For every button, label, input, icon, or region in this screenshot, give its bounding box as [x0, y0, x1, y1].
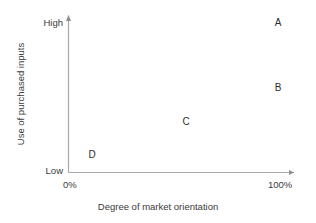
x-tick-label-zero: 0%: [63, 180, 77, 190]
y-axis-title: Use of purchased inputs: [16, 4, 29, 184]
y-tick-label-low: Low: [46, 166, 63, 176]
data-point-a: A: [275, 18, 282, 28]
y-tick-label-high: High: [43, 18, 63, 28]
data-point-c: C: [182, 117, 189, 127]
x-tick-label-hundred: 100%: [268, 180, 292, 190]
data-point-b: B: [275, 83, 282, 93]
x-axis-title: Degree of market orientation: [0, 202, 316, 212]
data-point-d: D: [88, 150, 95, 160]
chart-figure: High Low 0% 100% Use of purchased inputs…: [0, 0, 316, 223]
